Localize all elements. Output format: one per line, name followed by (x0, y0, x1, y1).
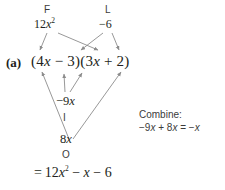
combine-note-heading: Combine: (139, 108, 200, 121)
foil-value-inner: −9x (56, 95, 75, 107)
foil-letter-first: F (44, 5, 50, 15)
expression-mid: − 3)(3 (51, 53, 93, 69)
result-mid: − (69, 165, 84, 180)
expression: (4x − 3)(3x + 2) (31, 54, 129, 69)
foil-letter-last: L (105, 5, 111, 15)
combine-note: Combine: −9x + 8x = −x (139, 108, 200, 134)
combine-note-equation: −9x + 8x = −x (139, 121, 200, 134)
result-tail: − 6 (90, 165, 112, 180)
foil-value-first-coef: 12 (34, 17, 46, 31)
foil-diagram-figure: F L 12x2 −6 (a) (4x − 3)(3x + 2) −9x I 8… (0, 0, 225, 190)
arrow-first-to-4x (40, 33, 47, 50)
expression-right-var: x (93, 53, 100, 69)
foil-value-outer-var: x (66, 132, 72, 146)
result-equals: = (34, 165, 45, 180)
combine-eq-part3: = − (177, 122, 194, 133)
arrow-inner-to-3x2 (70, 73, 82, 92)
foil-letter-outer: O (62, 150, 70, 160)
arrow-last-to-2 (112, 33, 119, 50)
arrow-outer-to-2 (73, 72, 121, 139)
expression-left-var: x (44, 53, 51, 69)
foil-value-inner-var: x (69, 94, 75, 108)
result-line: = 12x2 − x − 6 (34, 166, 112, 180)
foil-value-first-exponent: 2 (51, 16, 55, 25)
problem-label: (a) (6, 56, 21, 69)
combine-eq-var3: x (195, 122, 200, 133)
foil-letter-inner: I (63, 113, 66, 123)
arrow-inner-to-3 (64, 74, 65, 92)
foil-value-inner-coef: −9 (56, 94, 69, 108)
combine-eq-part1: −9 (139, 122, 150, 133)
result-coef: 12 (45, 165, 59, 180)
expression-left-open: (4 (31, 53, 44, 69)
arrow-last-to-4x (81, 33, 103, 50)
expression-right-close: + 2) (100, 53, 129, 69)
foil-value-outer: 8x (60, 133, 72, 145)
foil-value-first: 12x2 (34, 18, 55, 30)
arrow-first-to-3x (58, 33, 98, 50)
combine-eq-part2: + 8 (155, 122, 172, 133)
foil-value-last: −6 (99, 18, 112, 30)
